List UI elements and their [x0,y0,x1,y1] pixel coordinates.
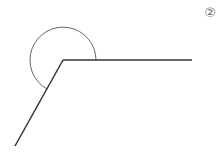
angle-diagram [0,0,224,156]
figure-number-label: ② [202,5,218,21]
reflex-angle-arc [30,27,96,89]
diagonal-ray [15,60,63,146]
